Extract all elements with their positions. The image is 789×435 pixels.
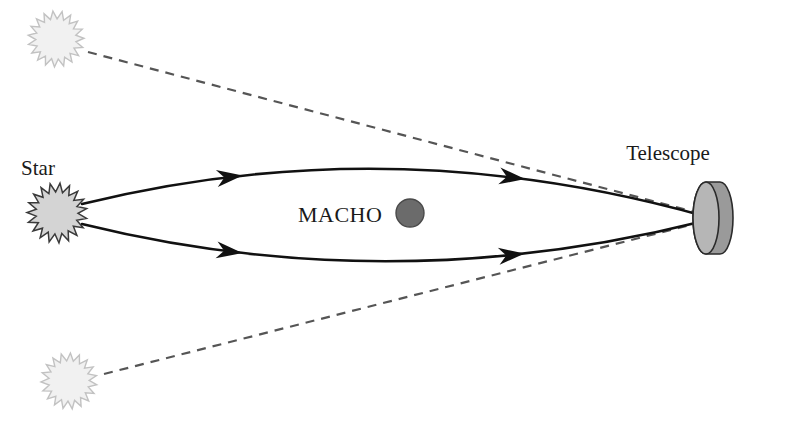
macho-label: MACHO bbox=[298, 202, 382, 227]
real-light-paths bbox=[82, 167, 704, 265]
apparent-path-upper bbox=[88, 52, 702, 214]
light-path-upper bbox=[82, 169, 704, 216]
apparent-star-lower bbox=[41, 353, 97, 409]
apparent-path-lower bbox=[104, 222, 702, 374]
macho-circle-icon bbox=[396, 199, 424, 227]
telescope-lens-icon bbox=[693, 182, 719, 254]
telescope-object bbox=[693, 182, 733, 254]
apparent-star-upper bbox=[28, 11, 84, 67]
source-star bbox=[27, 183, 87, 243]
light-path-lower bbox=[82, 221, 704, 261]
starburst-icon bbox=[28, 11, 84, 67]
starburst-icon bbox=[27, 183, 87, 243]
telescope-label: Telescope bbox=[626, 141, 710, 165]
starburst-icon bbox=[41, 353, 97, 409]
apparent-light-paths bbox=[88, 52, 702, 374]
microlensing-diagram: Star MACHO Telescope bbox=[0, 0, 789, 435]
macho-object bbox=[396, 199, 424, 227]
diagram-canvas: Star MACHO Telescope bbox=[0, 0, 789, 435]
star-label: Star bbox=[21, 156, 55, 180]
